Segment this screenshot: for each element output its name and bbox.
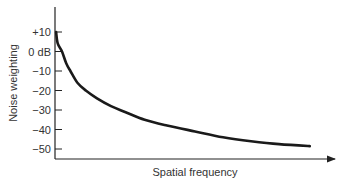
noise-weighting-curve [56,32,310,146]
x-axis-label: Spatial frequency [153,166,238,178]
y-tick-label: 0 dB [28,46,51,58]
y-axis-label: Noise weighting [7,44,19,122]
y-tick-label: −40 [32,124,51,136]
y-tick-label: −10 [32,65,51,77]
y-tick-label: −50 [32,143,51,155]
y-tick-label: −30 [32,104,51,116]
y-tick-label: −20 [32,85,51,97]
y-ticks: +100 dB−10−20−30−40−50 [28,26,62,155]
noise-weighting-chart: +100 dB−10−20−30−40−50 Spatial frequency… [0,0,343,184]
y-tick-label: +10 [32,26,51,38]
